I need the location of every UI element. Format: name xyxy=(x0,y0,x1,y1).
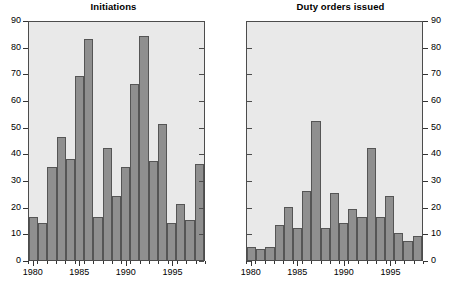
bar-initiations-1995 xyxy=(167,223,176,260)
bar-initiations-1994 xyxy=(158,124,167,260)
bar-initiations-1997 xyxy=(185,220,194,260)
bar-initiations-1982 xyxy=(47,167,56,260)
y-tick-inner-left-70 xyxy=(199,74,204,75)
two-panel-bar-chart-figure: Initiations 0102030405060708090 19801985… xyxy=(0,0,454,293)
y-tick-label-left-70: 70 xyxy=(11,69,21,78)
x-tick-minor-left-15 xyxy=(168,261,169,264)
x-tick-label-left-1985: 1985 xyxy=(69,267,89,277)
y-tick-inner-left-30 xyxy=(199,181,204,182)
y-tick-label-left-50: 50 xyxy=(11,123,21,132)
bar-initiations-1996 xyxy=(176,204,185,260)
bar-initiations-1989 xyxy=(112,196,121,260)
bar-initiations-1992 xyxy=(139,36,148,260)
x-tick-minor-left-11 xyxy=(130,261,131,264)
x-tick-major-left-1990 xyxy=(126,261,127,266)
x-tick-minor-left-17 xyxy=(186,261,187,264)
bar-initiations-1993 xyxy=(149,161,158,260)
x-tick-label-left-1990: 1990 xyxy=(116,267,136,277)
bar-initiations-1985 xyxy=(75,76,84,260)
y-tick-label-left-30: 30 xyxy=(11,176,21,185)
x-axis-left: 1980198519901995 xyxy=(28,261,205,293)
bar-initiations-1986 xyxy=(84,39,93,260)
y-axis-left: 0102030405060708090 xyxy=(0,21,28,261)
x-tick-label-left-1995: 1995 xyxy=(162,267,182,277)
x-tick-minor-left-6 xyxy=(84,261,85,264)
x-tick-minor-left-19 xyxy=(205,261,206,264)
panel-title-duty-orders-issued: Duty orders issued xyxy=(227,1,454,12)
x-tick-minor-left-9 xyxy=(112,261,113,264)
bar-initiations-1983 xyxy=(57,137,66,260)
y-tick-inner-left-80 xyxy=(199,48,204,49)
y-tick-label-left-20: 20 xyxy=(11,203,21,212)
x-tick-minor-left-13 xyxy=(149,261,150,264)
x-tick-major-left-1995 xyxy=(172,261,173,266)
y-tick-inner-left-40 xyxy=(199,154,204,155)
panel-initiations: Initiations 0102030405060708090 19801985… xyxy=(0,0,227,293)
y-tick-label-left-80: 80 xyxy=(11,43,21,52)
bar-initiations-1988 xyxy=(103,148,112,260)
x-tick-major-left-1985 xyxy=(79,261,80,266)
y-tick-inner-left-90 xyxy=(199,21,204,22)
x-tick-minor-left-2 xyxy=(47,261,48,264)
y-tick-label-left-10: 10 xyxy=(11,229,21,238)
x-tick-minor-left-7 xyxy=(93,261,94,264)
x-tick-minor-left-1 xyxy=(37,261,38,264)
bar-initiations-1981 xyxy=(38,223,47,260)
bar-initiations-1984 xyxy=(66,159,75,260)
y-tick-label-left-90: 90 xyxy=(11,16,21,25)
bar-series-initiations xyxy=(29,22,204,260)
x-tick-minor-left-18 xyxy=(196,261,197,264)
bar-initiations-1991 xyxy=(130,84,139,260)
bar-initiations-1987 xyxy=(93,217,102,260)
x-tick-major-left-1980 xyxy=(33,261,34,266)
x-tick-minor-left-4 xyxy=(65,261,66,264)
x-tick-minor-left-10 xyxy=(121,261,122,264)
x-tick-minor-left-5 xyxy=(75,261,76,264)
y-tick-inner-left-20 xyxy=(199,208,204,209)
panel-duty-orders-issued: Duty orders issued xyxy=(227,0,454,293)
x-tick-minor-left-16 xyxy=(177,261,178,264)
x-tick-minor-left-14 xyxy=(158,261,159,264)
bar-initiations-1998 xyxy=(195,164,204,260)
x-tick-minor-left-12 xyxy=(140,261,141,264)
bar-initiations-1980 xyxy=(29,217,38,260)
y-tick-inner-left-50 xyxy=(199,128,204,129)
y-tick-label-left-60: 60 xyxy=(11,96,21,105)
panel-title-initiations: Initiations xyxy=(0,1,227,12)
plot-area-initiations xyxy=(28,21,205,261)
bar-initiations-1990 xyxy=(121,167,130,260)
x-tick-minor-left-3 xyxy=(56,261,57,264)
y-tick-inner-left-10 xyxy=(199,234,204,235)
y-tick-label-left-0: 0 xyxy=(16,256,21,265)
x-tick-label-left-1980: 1980 xyxy=(23,267,43,277)
x-tick-minor-left-0 xyxy=(28,261,29,264)
x-tick-minor-left-8 xyxy=(103,261,104,264)
y-tick-inner-left-60 xyxy=(199,101,204,102)
y-tick-label-left-40: 40 xyxy=(11,149,21,158)
